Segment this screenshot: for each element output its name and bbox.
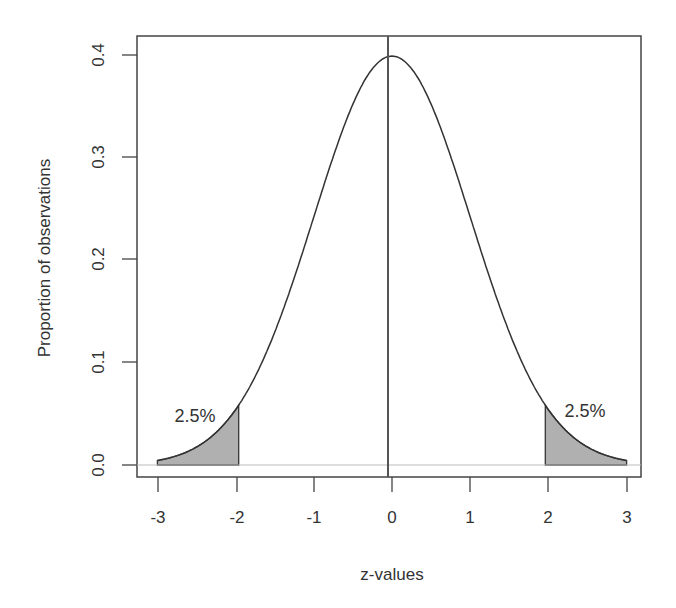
x-tick-label: 1	[465, 508, 474, 527]
x-tick-label: 3	[622, 508, 631, 527]
x-tick-label: 0	[387, 508, 396, 527]
left-tail-annotation: 2.5%	[174, 406, 215, 426]
x-axis-title: z-values	[360, 565, 423, 584]
normal-distribution-chart: 0.0 0.1 0.2 0.3 0.4 -3 -2 -1 0 1 2 3 z-v…	[0, 0, 676, 608]
x-axis: -3 -2 -1 0 1 2 3	[150, 477, 631, 527]
y-axis-title: Proportion of observations	[35, 159, 54, 357]
x-tick-label: 2	[543, 508, 552, 527]
density-curve	[157, 56, 626, 460]
y-tick-label: 0.0	[89, 453, 108, 477]
right-tail-annotation: 2.5%	[564, 401, 605, 421]
y-axis: 0.0 0.1 0.2 0.3 0.4	[89, 43, 137, 477]
y-tick-label: 0.4	[89, 43, 108, 67]
y-tick-label: 0.2	[89, 247, 108, 271]
x-tick-label: -3	[150, 508, 165, 527]
x-tick-label: -2	[229, 508, 244, 527]
y-tick-label: 0.1	[89, 350, 108, 374]
y-tick-label: 0.3	[89, 145, 108, 169]
x-tick-label: -1	[306, 508, 321, 527]
